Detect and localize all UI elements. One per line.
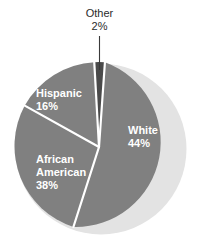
slice-percent-african-american: 38% [36,179,58,191]
pie-chart: Other 2% White 44% Hispanic 16% African … [0,0,200,252]
slice-label-hispanic: Hispanic [36,87,82,99]
slice-percent-other: 2% [92,20,108,32]
slice-label-african-american-line2: American [36,166,86,178]
slice-label-white: White [128,124,158,136]
slice-percent-white: 44% [128,137,150,149]
pie-chart-svg: Other 2% White 44% Hispanic 16% African … [0,0,200,252]
slice-label-other: Other [86,7,114,19]
slice-percent-hispanic: 16% [36,100,58,112]
slice-label-african-american-line1: African [36,153,74,165]
